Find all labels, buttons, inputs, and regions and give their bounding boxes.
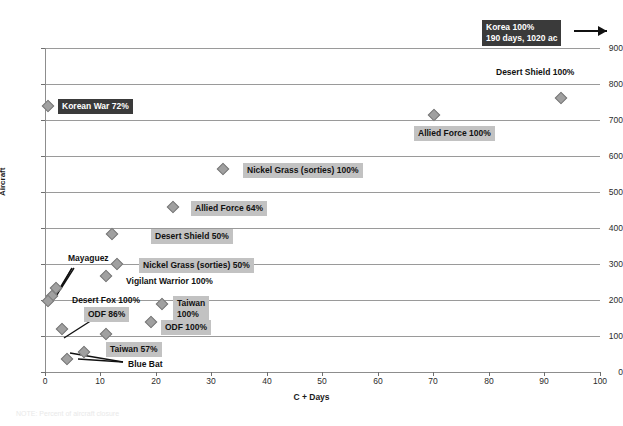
y-tick-100: 100 [583, 331, 623, 341]
label-allied-force-100: Allied Force 100% [414, 126, 495, 141]
x-axis-title: C + Days [0, 392, 623, 402]
label-korea-line1: Korea 100% [486, 22, 557, 33]
label-desert-fox: Desert Fox 100% [68, 293, 144, 308]
label-nickel-grass-100: Nickel Grass (sorties) 100% [243, 163, 363, 178]
x-tickmark-70 [433, 372, 434, 376]
x-tick-100: 100 [593, 376, 607, 386]
y-tickmark-600 [41, 156, 45, 157]
x-tickmark-20 [156, 372, 157, 376]
plot-area [45, 48, 600, 372]
x-tick-30: 30 [206, 376, 215, 386]
x-tickmark-80 [489, 372, 490, 376]
label-taiwan-100-line1: Taiwan [177, 298, 205, 309]
footnote: NOTE: Percent of aircraft closure [16, 410, 119, 417]
y-tickmark-300 [41, 264, 45, 265]
label-taiwan-100: Taiwan 100% [173, 296, 209, 322]
y-tick-400: 400 [583, 223, 623, 233]
x-tickmark-10 [100, 372, 101, 376]
y-tickmark-100 [41, 336, 45, 337]
label-vigilant-warrior: Vigilant Warrior 100% [122, 274, 217, 289]
x-tickmark-60 [378, 372, 379, 376]
x-tickmark-90 [544, 372, 545, 376]
y-axis-title: Aircraft [0, 168, 7, 196]
x-tick-10: 10 [95, 376, 104, 386]
x-tick-70: 70 [428, 376, 437, 386]
y-tick-500: 500 [583, 187, 623, 197]
y-tick-700: 700 [583, 115, 623, 125]
label-taiwan-57: Taiwan 57% [106, 342, 162, 357]
y-tickmark-400 [41, 228, 45, 229]
gridline-700 [45, 120, 600, 121]
label-nickel-grass-50: Nickel Grass (sorties) 50% [139, 258, 254, 273]
label-odf-86: ODF 86% [84, 307, 129, 322]
gridline-100 [45, 336, 600, 337]
label-desert-shield-100: Desert Shield 100% [492, 65, 578, 80]
y-tick-600: 600 [583, 151, 623, 161]
label-korea-line2: 190 days, 1020 ac [486, 33, 557, 44]
x-tick-90: 90 [539, 376, 548, 386]
x-tick-40: 40 [262, 376, 271, 386]
x-tickmark-100 [600, 372, 601, 376]
y-tick-200: 200 [583, 295, 623, 305]
label-allied-force-64: Allied Force 64% [191, 201, 267, 216]
x-tick-60: 60 [373, 376, 382, 386]
y-tickmark-900 [41, 48, 45, 49]
x-tick-80: 80 [484, 376, 493, 386]
y-tickmark-700 [41, 120, 45, 121]
label-korea-offscale: Korea 100% 190 days, 1020 ac [482, 20, 561, 46]
gridline-400 [45, 228, 600, 229]
x-tick-20: 20 [151, 376, 160, 386]
label-korean-war: Korean War 72% [58, 99, 133, 114]
y-tick-800: 800 [583, 79, 623, 89]
scatter-chart: 900 800 700 600 500 400 300 200 100 0 0 … [0, 0, 623, 426]
x-tickmark-0 [45, 372, 46, 376]
x-tickmark-40 [267, 372, 268, 376]
label-mayaguez: Mayaguez [64, 251, 113, 266]
gridline-500 [45, 192, 600, 193]
gridline-600 [45, 156, 600, 157]
x-axis-line [45, 372, 601, 373]
y-tickmark-800 [41, 84, 45, 85]
y-axis-line [45, 48, 46, 373]
label-blue-bat: Blue Bat [124, 357, 166, 372]
label-desert-shield-50: Desert Shield 50% [151, 229, 233, 244]
y-tick-300: 300 [583, 259, 623, 269]
label-odf-100: ODF 100% [161, 320, 211, 335]
gridline-300 [45, 264, 600, 265]
y-tick-900: 900 [583, 43, 623, 53]
x-tickmark-30 [211, 372, 212, 376]
y-tickmark-500 [41, 192, 45, 193]
label-taiwan-100-line2: 100% [177, 309, 205, 320]
x-tick-50: 50 [317, 376, 326, 386]
x-tick-0: 0 [43, 376, 48, 386]
gridline-900 [45, 48, 600, 49]
gridline-800 [45, 84, 600, 85]
x-tickmark-50 [322, 372, 323, 376]
